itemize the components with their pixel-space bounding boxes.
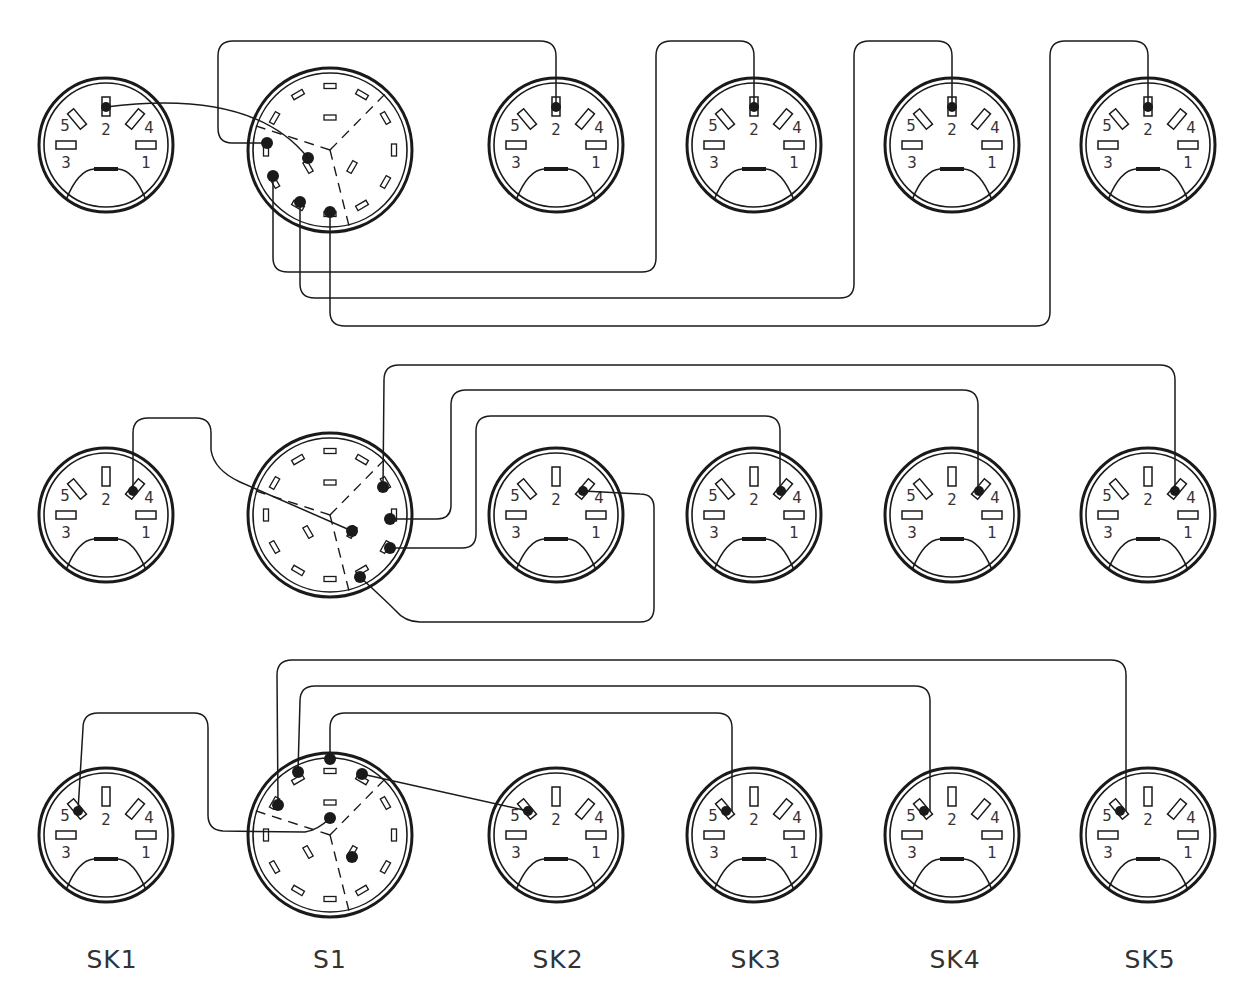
pin-2 [102,787,110,806]
pin-label-2: 2 [101,811,111,829]
key-notch [516,859,596,890]
pin-5 [716,109,735,129]
key-notch [516,539,596,570]
pin-4 [1168,109,1187,129]
pin-3 [56,511,76,519]
pin-label-3: 3 [907,154,917,172]
pin-label-1: 1 [789,524,799,542]
pin-4 [774,799,793,819]
pin-label-4: 4 [792,489,802,507]
key-notch [66,859,146,890]
wire-sk4 [300,41,952,298]
pin-label-2: 2 [1143,121,1153,139]
pin-1 [1178,831,1198,839]
solder-point [776,486,786,496]
pin-label-2: 2 [947,121,957,139]
pin-2 [552,787,560,806]
pin-label-1: 1 [789,844,799,862]
pin-3 [506,831,526,839]
key-notch [714,859,794,890]
key-notch [1108,859,1188,890]
pin-label-4: 4 [792,809,802,827]
pin-5 [914,109,933,129]
pin-label-2: 2 [1143,811,1153,829]
pin-label-2: 2 [1143,491,1153,509]
socket-sk2-row2: 25431 [489,448,623,582]
pin-label-5: 5 [708,487,718,505]
pin-label-1: 1 [987,154,997,172]
pin-1 [784,831,804,839]
pin-2 [102,467,110,486]
pin-label-3: 3 [709,154,719,172]
key-notch [516,169,596,200]
pin-2 [750,467,758,486]
pin-label-4: 4 [594,809,604,827]
pin-5 [518,479,537,499]
wire-sk4 [390,390,978,519]
pin-label-1: 1 [987,524,997,542]
pin-5 [518,109,537,129]
pin-5 [914,479,933,499]
pin-3 [1098,831,1118,839]
pin-1 [982,511,1002,519]
key-notch [912,169,992,200]
pin-3 [704,511,724,519]
pin-4 [126,799,145,819]
pin-label-2: 2 [101,121,111,139]
socket-sk5-row3: 25431 [1081,768,1215,902]
pin-label-3: 3 [1103,524,1113,542]
pin-label-5: 5 [510,807,520,825]
pin-label-4: 4 [144,119,154,137]
key-notch [66,169,146,200]
key-notch [912,859,992,890]
pin-label-1: 1 [1183,524,1193,542]
pin-label-5: 5 [906,807,916,825]
pin-3 [1098,511,1118,519]
socket-sk3-row2: 25431 [687,448,821,582]
wiring-diagram: 2543125431254312543125431254312543125431… [0,0,1251,1005]
wire-sk4 [298,686,930,811]
label-sk3: SK3 [730,945,781,974]
pin-label-2: 2 [101,491,111,509]
pin-1 [1178,141,1198,149]
socket-sk5-row2: 25431 [1081,448,1215,582]
socket-sk2-row3: 25431 [489,768,623,902]
pin-label-5: 5 [906,117,916,135]
pin-label-4: 4 [990,119,1000,137]
pin-label-3: 3 [61,154,71,172]
pin-label-5: 5 [60,807,70,825]
pin-label-3: 3 [709,524,719,542]
solder-point [1115,806,1125,816]
wire-sk5 [383,365,1175,491]
pin-label-3: 3 [1103,844,1113,862]
pin-3 [56,141,76,149]
pin-label-2: 2 [749,121,759,139]
pin-label-3: 3 [511,524,521,542]
pin-label-1: 1 [1183,844,1193,862]
pin-2 [948,787,956,806]
pin-5 [716,479,735,499]
pin-label-3: 3 [709,844,719,862]
key-notch [66,539,146,570]
pin-5 [68,109,87,129]
label-sk1: SK1 [86,945,137,974]
key-notch [1108,169,1188,200]
pin-1 [784,511,804,519]
key-notch [714,169,794,200]
pin-3 [704,831,724,839]
pin-label-4: 4 [792,119,802,137]
pin-label-1: 1 [1183,154,1193,172]
pin-4 [576,799,595,819]
pin-label-4: 4 [144,489,154,507]
pin-label-1: 1 [987,844,997,862]
pin-label-4: 4 [990,489,1000,507]
socket-sk1-row2: 25431 [39,448,173,582]
socket-sk1-row1: 25431 [39,78,173,212]
pin-label-3: 3 [907,524,917,542]
key-notch [1108,539,1188,570]
pin-3 [1098,141,1118,149]
pin-label-4: 4 [144,809,154,827]
pin-1 [136,141,156,149]
pin-4 [1168,799,1187,819]
pin-3 [704,141,724,149]
